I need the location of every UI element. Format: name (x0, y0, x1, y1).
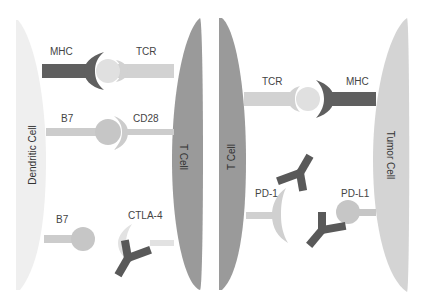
b7-top-stalk (46, 128, 100, 136)
ctla4-label: CTLA-4 (128, 211, 162, 221)
dendritic-cell-label: Dendritic Cell (28, 123, 38, 187)
antigen-ball (96, 59, 120, 83)
antigen-ball (296, 87, 320, 111)
mhc-stalk (330, 92, 376, 106)
b7-top-ball (95, 119, 121, 145)
anti-ctla4-antibody-icon (105, 233, 154, 285)
cd28-stalk (126, 129, 174, 135)
pdl1-label: PD-L1 (341, 189, 369, 199)
b7-top-label: B7 (61, 114, 73, 124)
t-cell-label-right: T Cell (227, 137, 237, 177)
cd28-label: CD28 (133, 114, 159, 124)
pd1-panel: TCR MHC PD-1 PD-L1 T Cell Tumor Cell (210, 0, 421, 305)
ctla4-stalk (150, 240, 174, 246)
pd1-label: PD-1 (255, 189, 278, 199)
pdl1-ball (336, 200, 360, 224)
b7-bottom-label: B7 (56, 215, 68, 225)
b7-bottom-ball (71, 227, 95, 251)
anti-pd1-antibody-icon (274, 146, 323, 198)
pdl1-stalk (358, 209, 376, 216)
tumor-cell-label: Tumor Cell (385, 125, 395, 185)
mhc-label: MHC (50, 47, 73, 57)
tcr-label: TCR (262, 77, 283, 87)
ctla4-panel: MHC TCR B7 CD28 B7 CTLA-4 Dendritic Cell… (0, 0, 210, 305)
tcr-stalk (244, 92, 294, 106)
t-cell-label-left: T Cell (178, 137, 188, 177)
tcr-label: TCR (136, 47, 157, 57)
pd1-stalk (246, 212, 276, 219)
mhc-label: MHC (346, 77, 369, 87)
